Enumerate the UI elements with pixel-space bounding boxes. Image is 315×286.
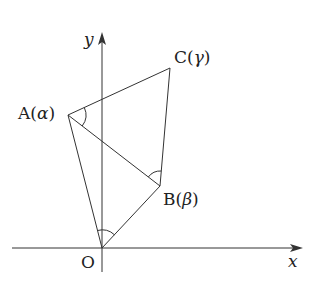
point-A-alpha: α xyxy=(37,103,49,123)
angle-arc-O xyxy=(98,230,115,235)
x-axis-label: x xyxy=(288,251,298,271)
point-A-name: A xyxy=(17,103,31,123)
point-B-name: B xyxy=(163,189,176,209)
point-label-C: C(γ) xyxy=(174,47,210,67)
complex-plane-diagram: y x O A(α) C(γ) B(β) xyxy=(0,0,315,286)
angle-arc-A xyxy=(82,108,86,127)
segments xyxy=(68,68,170,248)
labels: y x O A(α) C(γ) B(β) xyxy=(17,29,298,272)
point-label-B: B(β) xyxy=(163,189,199,209)
axes xyxy=(12,32,303,272)
origin-label: O xyxy=(81,252,95,272)
segment-BC xyxy=(160,68,170,186)
point-label-A: A(α) xyxy=(17,103,55,123)
point-C-name: C xyxy=(174,47,187,67)
segment-AC xyxy=(68,68,170,115)
point-B-beta: β xyxy=(181,189,192,209)
segment-AB xyxy=(68,115,160,186)
angle-arc-B xyxy=(148,171,161,177)
segment-OB xyxy=(102,186,160,248)
y-axis-label: y xyxy=(83,29,94,49)
segment-OA xyxy=(68,115,102,248)
